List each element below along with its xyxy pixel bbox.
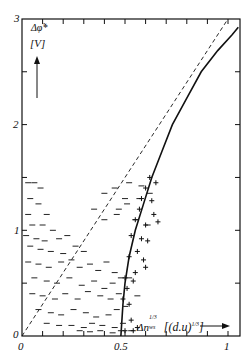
- axis-arrows: [34, 56, 230, 329]
- arrow-right-icon: [222, 323, 230, 329]
- chart: [0, 0, 252, 358]
- plot-frame: [22, 19, 240, 336]
- x-axis-label: Δn1/3ws [(d.u)1/3]: [137, 320, 204, 335]
- y-tick-1: 1: [14, 224, 20, 236]
- y-tick-3: 3: [14, 12, 20, 24]
- theory-curve: [121, 27, 238, 336]
- data-points: [23, 175, 160, 333]
- x-tick-1: 1: [224, 340, 230, 352]
- y-tick-2: 2: [13, 118, 19, 130]
- x-axis-unit: [(d.u): [164, 320, 192, 334]
- y-axis-unit: [V]: [30, 37, 45, 49]
- x-axis-sub: ws: [149, 324, 155, 330]
- y-tick-0: 0: [13, 328, 19, 340]
- y-axis-label: Δφ̃*: [31, 22, 47, 33]
- x-axis-unit-close: ]: [199, 320, 204, 334]
- x-axis-sup: 1/3: [149, 314, 157, 320]
- axis-ticks: [22, 19, 240, 336]
- x-axis-unit-sup: 1/3: [191, 321, 199, 327]
- arrow-up-icon: [34, 56, 40, 64]
- x-tick-0: 0: [18, 340, 24, 352]
- x-tick-0-5: 0.5: [114, 340, 128, 352]
- x-axis-symbol: Δn: [137, 321, 149, 333]
